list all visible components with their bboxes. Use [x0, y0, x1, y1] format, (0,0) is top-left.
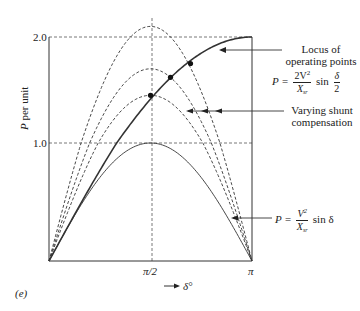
locus-annotation: Locus of operating points [282, 44, 360, 67]
locus-label-line2: operating points [282, 56, 360, 67]
locus-formula: P = 2V2 Xsr sin δ 2 [272, 68, 342, 97]
shunt-label-line2: compensation [284, 117, 360, 128]
y-axis-label-rest: per unit [18, 87, 30, 124]
locus-fnum: δ [334, 71, 341, 83]
x-tick-pi-half: π/2 [143, 266, 157, 277]
base-formula-sin: sin δ [313, 213, 334, 225]
x-axis-label: δ° [183, 281, 193, 292]
operating-point-2 [188, 61, 193, 66]
locus-fden: 2 [334, 83, 339, 94]
x-direction-arrow-icon [174, 284, 180, 289]
panel-label: (e) [15, 288, 27, 299]
y-tick-2: 2.0 [33, 32, 47, 43]
locus-den-sub: sr [303, 89, 308, 95]
locus-formula-P: P = [272, 75, 289, 87]
y-axis-label: P per unit [18, 87, 30, 130]
locus-formula-angle-fraction: δ 2 [334, 71, 341, 94]
shunt-arrow-icon-1 [186, 109, 193, 114]
locus-arrow-icon [219, 47, 226, 53]
base-num-sup: 2 [304, 207, 308, 215]
operating-points-group [148, 61, 193, 98]
locus-formula-sin: sin [316, 75, 329, 87]
y-tick-1: 1.0 [33, 138, 47, 149]
locus-num: 2V [294, 70, 306, 81]
curve-3 [49, 26, 252, 261]
base-curve-formula: P = V2 Xsr sin δ [275, 206, 334, 235]
y-axis-label-P: P [18, 123, 30, 130]
operating-point-0 [148, 93, 153, 98]
base-formula-P: P = [275, 213, 292, 225]
shunt-arrow-icon-3 [215, 109, 222, 114]
shunt-annotation: Varying shunt compensation [284, 105, 360, 128]
curve-1 [49, 95, 252, 261]
operating-point-1 [168, 75, 173, 80]
shunt-arrow-icon-2 [201, 109, 208, 114]
base-formula-fraction: V2 Xsr [296, 206, 308, 235]
x-tick-pi: π [248, 266, 254, 277]
base-den-sub: sr [303, 227, 308, 233]
locus-formula-fraction: 2V2 Xsr [293, 68, 311, 97]
curves-group [49, 26, 252, 261]
shunt-label-line1: Varying shunt [284, 105, 360, 116]
locus-label-line1: Locus of [282, 44, 360, 55]
locus-num-sup: 2 [307, 69, 311, 77]
curve-0 [49, 143, 252, 261]
